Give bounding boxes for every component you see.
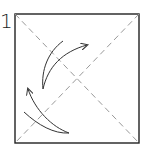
origami-diagram	[0, 0, 144, 145]
